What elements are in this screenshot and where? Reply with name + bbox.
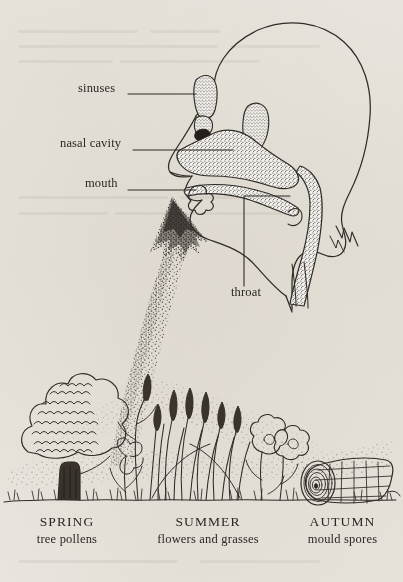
season-caption-autumn: AUTUMN mould spores (282, 514, 403, 547)
season-allergen-summer: flowers and grasses (134, 532, 282, 548)
season-caption-spring: SPRING tree pollens (0, 514, 134, 547)
label-nasal-cavity: nasal cavity (60, 137, 121, 150)
season-allergen-autumn: mould spores (282, 532, 403, 548)
season-allergen-spring: tree pollens (0, 532, 134, 548)
callout-leader-lines (0, 0, 403, 582)
season-name-summer: SUMMER (134, 514, 282, 530)
label-throat: throat (231, 286, 261, 299)
season-caption-summer: SUMMER flowers and grasses (134, 514, 282, 547)
illustration-figure: sinuses nasal cavity mouth throat SPRING… (0, 0, 403, 582)
label-sinuses: sinuses (78, 82, 115, 95)
season-name-autumn: AUTUMN (282, 514, 403, 530)
leader-line-throat (244, 196, 290, 286)
label-mouth: mouth (85, 177, 118, 190)
season-name-spring: SPRING (0, 514, 134, 530)
